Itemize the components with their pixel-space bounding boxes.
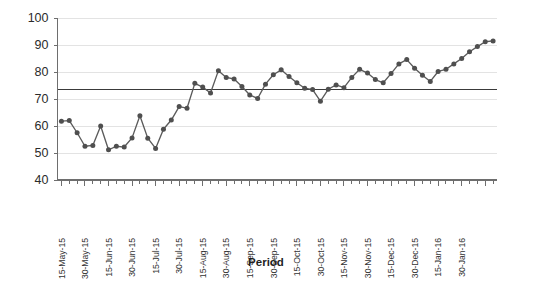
data-point-marker <box>59 119 64 124</box>
data-point-marker <box>200 85 205 90</box>
x-tick-label: 30-Dec-15 <box>410 238 420 278</box>
data-point-marker <box>279 67 284 72</box>
x-tick-label: 15-Jun-15 <box>104 238 114 277</box>
x-tick-label: 30-Jul-15 <box>174 238 184 274</box>
data-point-marker <box>451 61 456 66</box>
data-point-marker <box>467 49 472 54</box>
data-point-marker <box>106 147 111 152</box>
data-point-marker <box>491 38 496 43</box>
data-point-marker <box>247 92 252 97</box>
data-point-marker <box>412 66 417 71</box>
data-series-group <box>59 38 496 152</box>
x-tick-label: 15-Dec-15 <box>386 238 396 278</box>
data-point-marker <box>177 104 182 109</box>
x-axis-title: Period <box>248 256 284 268</box>
data-point-marker <box>161 127 166 132</box>
data-point-marker <box>114 144 119 149</box>
y-tick-label: 70 <box>35 92 49 106</box>
y-tick-label: 100 <box>28 11 49 25</box>
line-chart: 405060708090100 15-May-1530-May-1515-Jun… <box>0 0 533 282</box>
data-point-marker <box>334 82 339 87</box>
data-point-marker <box>341 85 346 90</box>
data-point-marker <box>255 96 260 101</box>
gridline-group <box>58 18 498 180</box>
data-point-marker <box>169 118 174 123</box>
data-point-marker <box>310 87 315 92</box>
series-line-value <box>61 41 493 150</box>
data-point-marker <box>287 74 292 79</box>
data-point-marker <box>420 73 425 78</box>
data-point-marker <box>130 135 135 140</box>
y-tick-label: 50 <box>35 146 49 160</box>
x-tick-label: 15-Jan-16 <box>433 238 443 277</box>
data-point-marker <box>349 75 354 80</box>
x-tick-label: 15-Jul-15 <box>151 238 161 274</box>
data-point-marker <box>459 56 464 61</box>
data-point-marker <box>185 106 190 111</box>
data-point-marker <box>153 146 158 151</box>
data-point-marker <box>82 144 87 149</box>
data-point-marker <box>271 72 276 77</box>
x-tick-label: 15-Nov-15 <box>339 238 349 278</box>
data-point-marker <box>483 39 488 44</box>
data-point-marker <box>145 136 150 141</box>
data-point-marker <box>381 80 386 85</box>
data-point-marker <box>192 81 197 86</box>
data-point-marker <box>428 79 433 84</box>
data-point-marker <box>90 143 95 148</box>
data-point-marker <box>67 118 72 123</box>
chart-canvas: 405060708090100 15-May-1530-May-1515-Jun… <box>0 0 533 282</box>
data-point-marker <box>208 91 213 96</box>
data-point-marker <box>232 77 237 82</box>
data-point-marker <box>263 82 268 87</box>
y-tick-label: 40 <box>35 173 49 187</box>
x-tick-label: 30-Aug-15 <box>221 238 231 278</box>
data-point-marker <box>436 69 441 74</box>
y-tick-label-group: 405060708090100 <box>28 11 58 187</box>
x-tick-label: 30-Oct-15 <box>316 238 326 276</box>
data-point-marker <box>98 124 103 129</box>
data-point-marker <box>365 71 370 76</box>
data-point-marker <box>216 68 221 73</box>
data-point-marker <box>326 87 331 92</box>
data-point-marker <box>122 145 127 150</box>
data-point-marker <box>357 67 362 72</box>
data-point-marker <box>389 71 394 76</box>
data-point-marker <box>373 77 378 82</box>
y-tick-label: 80 <box>35 65 49 79</box>
x-tick-label: 30-Jun-15 <box>127 238 137 277</box>
x-tick-label: 30-May-15 <box>80 238 90 279</box>
data-point-marker <box>404 57 409 62</box>
data-point-marker <box>75 130 80 135</box>
data-point-marker <box>396 61 401 66</box>
y-tick-label: 60 <box>35 119 49 133</box>
data-point-marker <box>302 86 307 91</box>
x-tick-label: 15-Aug-15 <box>198 238 208 278</box>
data-point-marker <box>318 99 323 104</box>
x-tick-label: 30-Jan-16 <box>457 238 467 277</box>
data-point-marker <box>239 84 244 89</box>
x-tick-label: 15-Oct-15 <box>292 238 302 276</box>
data-point-marker <box>224 75 229 80</box>
x-tick-label: 30-Nov-15 <box>363 238 373 278</box>
y-tick-label: 90 <box>35 38 49 52</box>
data-point-marker <box>443 67 448 72</box>
data-point-marker <box>475 44 480 49</box>
data-point-marker <box>294 80 299 85</box>
data-point-marker <box>137 113 142 118</box>
x-tick-label: 15-May-15 <box>57 238 67 279</box>
